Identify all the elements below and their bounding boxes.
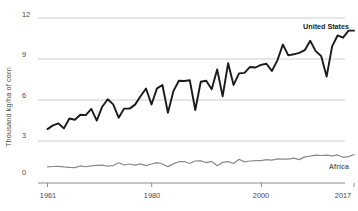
data-line-united-states xyxy=(48,31,355,129)
x-axis-tick-1980: 1980 xyxy=(137,192,167,200)
corn-yield-line-chart: Thousand kg/ha of corn 12 9 6 3 0 1961 1… xyxy=(0,0,358,211)
series-label-africa: Africa xyxy=(329,163,349,171)
x-axis-tick-1961: 1961 xyxy=(33,192,63,200)
data-line-africa xyxy=(48,155,355,168)
x-axis-tick-2017: 2017 xyxy=(328,192,358,200)
x-axis-line xyxy=(38,183,354,187)
x-axis-tick-2000: 2000 xyxy=(246,192,276,200)
plot-area xyxy=(0,0,358,211)
series-label-united-states: United States xyxy=(303,23,349,31)
gridlines xyxy=(38,18,345,141)
